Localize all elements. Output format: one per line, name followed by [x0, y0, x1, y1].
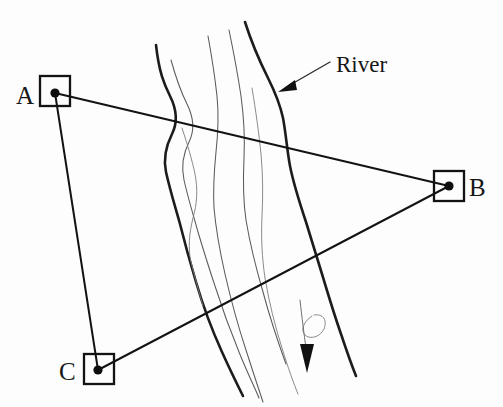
river-inner-line-5 [252, 88, 298, 394]
river-inner-line-3 [208, 36, 263, 402]
station-a-label: A [16, 82, 34, 109]
station-c[interactable]: C [59, 354, 114, 385]
river-callout: River [278, 52, 387, 92]
river-leader-arrowhead [278, 80, 297, 92]
station-b-label: B [469, 174, 486, 201]
station-a[interactable]: A [16, 76, 70, 109]
river-group [156, 22, 356, 402]
river-survey-diagram: A B C River [0, 0, 503, 407]
sight-line-a-c [55, 93, 98, 370]
river-inner-line-2 [182, 128, 203, 306]
diagram-canvas: A B C River [0, 0, 503, 407]
sight-lines-group [55, 93, 449, 370]
station-b[interactable]: B [434, 171, 486, 201]
station-b-point [444, 181, 453, 190]
sight-line-c-b [98, 186, 449, 370]
flow-arrow-head [300, 344, 314, 373]
station-c-label: C [59, 358, 76, 385]
station-a-point [50, 88, 59, 97]
river-eddy-loop [303, 315, 325, 338]
station-c-point [93, 365, 102, 374]
sight-line-a-b [55, 93, 449, 186]
river-inner-line-1 [171, 60, 259, 398]
river-label: River [336, 52, 387, 77]
river-leader-line [290, 62, 330, 85]
river-inner-line-4 [229, 30, 286, 364]
flow-arrow-stem [300, 300, 306, 348]
river-left-bank [156, 45, 243, 396]
